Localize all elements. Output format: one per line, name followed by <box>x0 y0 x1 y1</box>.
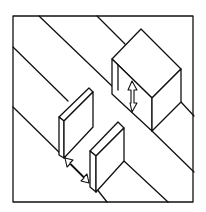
left-wall-slab <box>59 88 93 158</box>
diagram-container <box>0 0 206 212</box>
upper-right-block <box>112 29 181 131</box>
gap-arrow-icon <box>65 158 89 183</box>
intersection-diagram <box>0 0 206 212</box>
lower-center-wall-slab <box>90 122 124 192</box>
